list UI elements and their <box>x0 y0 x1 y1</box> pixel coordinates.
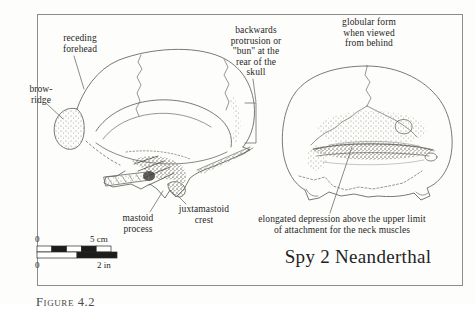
scale-cm-start: 0 <box>35 234 40 244</box>
label-brow-ridge: brow- ridge <box>20 84 62 105</box>
scale-in-end: 2 in <box>97 260 111 270</box>
skull-posterior-drawing <box>282 66 452 200</box>
label-bun: backwards protrusion or "bun" at the rea… <box>215 25 297 78</box>
label-elongated-depression: elongated depression above the upper lim… <box>240 214 444 235</box>
scale-bar <box>37 246 117 258</box>
scale-in-start: 0 <box>35 260 40 270</box>
leader-mastoid-process <box>150 191 163 212</box>
label-juxtamastoid-crest: juxtamastoid crest <box>170 204 238 225</box>
figure-title: Spy 2 Neanderthal <box>262 246 454 268</box>
scale-cm-end: 5 cm <box>90 234 108 244</box>
label-receding-forehead: receding forehead <box>52 33 108 54</box>
leader-brow-ridge <box>47 104 63 119</box>
leader-receding-forehead <box>74 56 84 89</box>
label-globular-form: globular form when viewed from behind <box>328 17 410 49</box>
label-mastoid-process: mastoid process <box>112 213 164 234</box>
figure-caption: Figure 4.2 <box>36 295 95 310</box>
